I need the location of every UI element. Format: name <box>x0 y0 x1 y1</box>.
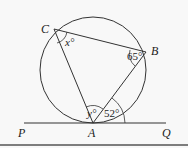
label-q: Q <box>162 126 171 140</box>
label-a: A <box>87 126 96 140</box>
angle-x-label: x° <box>64 36 75 48</box>
angle-52-label: 52° <box>104 107 119 119</box>
diagram-canvas: C B A P Q x° 65° y° 52° <box>0 0 188 148</box>
circle-theorem-diagram: C B A P Q x° 65° y° 52° <box>0 0 188 148</box>
label-c: C <box>41 22 50 36</box>
label-p: P <box>17 126 26 140</box>
label-b: B <box>151 44 159 58</box>
angle-y-label: y° <box>86 107 97 119</box>
angle-65-label: 65° <box>127 50 142 62</box>
